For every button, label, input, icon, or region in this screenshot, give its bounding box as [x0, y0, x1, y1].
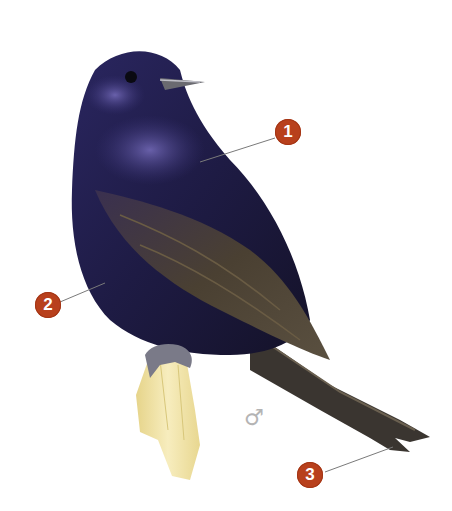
- callout-marker-1: 1: [275, 119, 301, 145]
- leader-line-3: [325, 447, 393, 472]
- tail: [250, 330, 430, 452]
- bird-illustration: 1 2 3 ♂: [0, 0, 452, 511]
- male-symbol-icon: ♂: [244, 405, 264, 430]
- perch: [136, 352, 200, 480]
- eye: [125, 71, 137, 83]
- callout-marker-3: 3: [297, 462, 323, 488]
- bird-drawing: [0, 0, 452, 511]
- callout-marker-2: 2: [35, 292, 61, 318]
